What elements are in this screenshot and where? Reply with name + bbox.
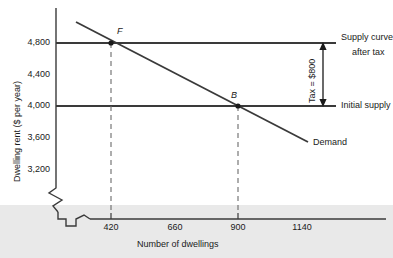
y-tick-label-4800: 4,800	[8, 38, 50, 47]
chart-graphics	[0, 0, 393, 258]
x-tick-label-420: 420	[91, 223, 131, 232]
x-tick-label-660: 660	[155, 223, 195, 232]
y-tick-label-3600: 3,600	[8, 133, 50, 142]
point-f-marker	[108, 40, 113, 45]
x-tick-label-1140: 1140	[282, 223, 322, 232]
supply-after-tax-label-line2: after tax	[352, 48, 385, 57]
chart-canvas: Dwelling rent ($ per year) 4,800 4,400 4…	[0, 0, 393, 258]
point-f-label: F	[117, 27, 123, 36]
y-axis-break-icon	[49, 182, 62, 212]
y-tick-label-4400: 4,400	[8, 70, 50, 79]
y-tick-label-4000: 4,000	[8, 101, 50, 110]
x-axis-break-icon	[58, 212, 90, 226]
demand-label: Demand	[313, 138, 347, 147]
x-axis-title: Number of dwellings	[137, 240, 219, 249]
point-b-label: B	[231, 91, 237, 100]
initial-supply-label: Initial supply	[341, 101, 391, 110]
supply-after-tax-label-line1: Supply curve	[341, 33, 393, 42]
y-tick-label-3200: 3,200	[8, 165, 50, 174]
x-tick-label-900: 900	[218, 223, 258, 232]
tax-annotation-label: Tax = $800	[307, 59, 317, 103]
point-b-marker	[235, 103, 240, 108]
